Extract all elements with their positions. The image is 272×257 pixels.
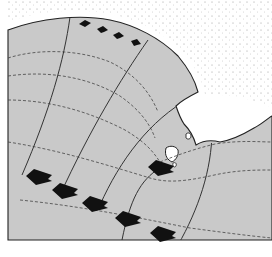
wave-refraction-diagram: [0, 0, 272, 257]
island-small: [186, 133, 191, 139]
